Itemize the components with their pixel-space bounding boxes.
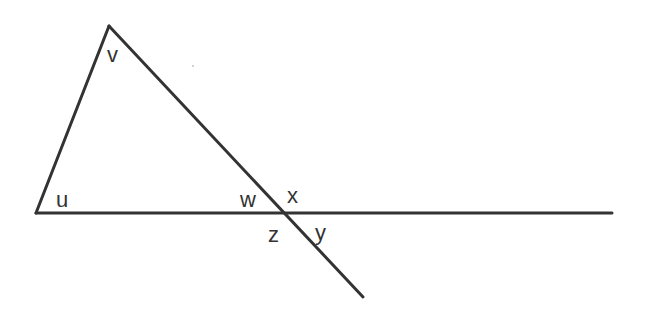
angle-label-v: v bbox=[107, 42, 118, 67]
angle-label-y: y bbox=[315, 220, 326, 245]
angle-diagram: u v w x y z bbox=[0, 0, 647, 318]
transversal-line bbox=[109, 26, 363, 297]
angle-label-u: u bbox=[56, 187, 68, 212]
angle-label-w: w bbox=[239, 187, 256, 212]
angle-label-z: z bbox=[268, 222, 279, 247]
angle-label-x: x bbox=[287, 183, 298, 208]
triangle-left-side bbox=[36, 26, 109, 213]
stray-dot bbox=[192, 65, 194, 67]
